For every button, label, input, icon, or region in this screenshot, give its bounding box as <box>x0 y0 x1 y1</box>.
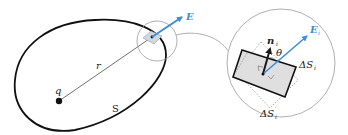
label-delta-s-prime: ΔS <box>259 108 274 119</box>
label-ei: E <box>309 24 318 35</box>
label-theta: θ <box>276 47 282 58</box>
label-e: E <box>185 11 194 22</box>
element-center-point <box>262 73 265 76</box>
label-delta-s-sub: i <box>314 64 316 71</box>
label-ei-sub: i <box>318 29 320 36</box>
charge-q-dot <box>56 98 62 104</box>
label-delta-s-prime-sub: i <box>275 113 277 120</box>
field-arrow-e <box>152 17 182 37</box>
label-s: S <box>112 103 119 114</box>
label-n-sub: i <box>276 40 278 47</box>
label-r: r <box>96 60 102 71</box>
zoom-connector <box>176 33 229 52</box>
gauss-law-diagram: q r S E n i θ E i ΔS i ΔS ′ i <box>0 0 348 135</box>
label-delta-s: ΔS <box>298 59 313 70</box>
label-q: q <box>55 85 61 96</box>
closed-surface-s <box>15 20 166 131</box>
label-n: n <box>267 35 274 46</box>
